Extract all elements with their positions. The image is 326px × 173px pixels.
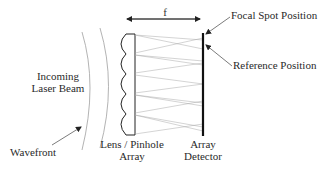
incoming-laser-beam-label: Incoming Laser Beam — [28, 70, 88, 94]
wavefront-arc-inner — [100, 28, 109, 148]
lens-array-label: Lens / Pinhole Array — [96, 138, 168, 162]
array-detector-label: Array Detector — [180, 138, 226, 162]
wavefront-leader — [52, 127, 81, 145]
light-rays — [135, 35, 203, 134]
focal-spot-leader — [206, 17, 230, 34]
wavefront-sensor-diagram: f Focal Spot Position Reference Position… — [0, 0, 326, 173]
array-detector-line2: Detector — [180, 150, 226, 162]
array-detector-line1: Array — [180, 138, 226, 150]
reference-position-label: Reference Position — [233, 59, 316, 71]
focal-spot-position-label: Focal Spot Position — [231, 9, 317, 21]
focal-length-label: f — [163, 6, 167, 18]
reference-position-leader — [206, 45, 232, 66]
incoming-laser-beam-line1: Incoming — [28, 70, 88, 82]
lenslet-profile — [121, 34, 126, 135]
incoming-laser-beam-line2: Laser Beam — [28, 82, 88, 94]
wavefront-label: Wavefront — [10, 146, 56, 158]
lens-array-line1: Lens / Pinhole — [96, 138, 168, 150]
lens-array — [121, 34, 135, 135]
lens-array-line2: Array — [96, 150, 168, 162]
